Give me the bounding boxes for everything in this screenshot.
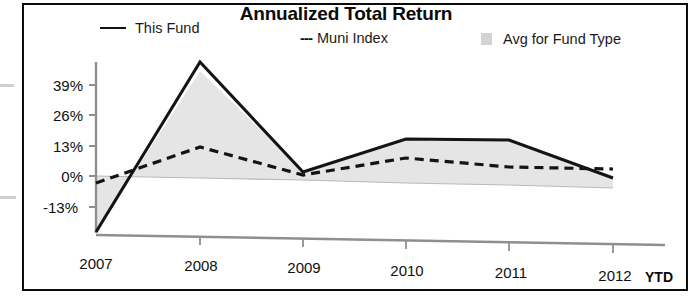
x-axis-label-2012: 2012 — [598, 267, 631, 284]
y-axis-label-39: 39% — [25, 77, 83, 94]
y-axis-label-13: 13% — [25, 138, 83, 155]
x-axis-label-2008: 2008 — [184, 257, 217, 274]
chart-screenshot: Annualized Total Return This Fund --- Mu… — [0, 0, 694, 299]
y-axis-label-26: 26% — [25, 107, 83, 124]
y-axis-label-neg13: -13% — [20, 199, 78, 216]
x-axis-line — [96, 235, 665, 245]
x-axis-label-2009: 2009 — [287, 259, 320, 276]
y-axis-label-0: 0% — [25, 168, 83, 185]
x-axis-label-2007: 2007 — [79, 255, 112, 272]
avg-fund-type-band — [96, 71, 613, 232]
x-axis-label-2010: 2010 — [390, 262, 423, 279]
ytd-label: YTD — [645, 269, 673, 285]
x-axis-label-2011: 2011 — [495, 264, 527, 281]
